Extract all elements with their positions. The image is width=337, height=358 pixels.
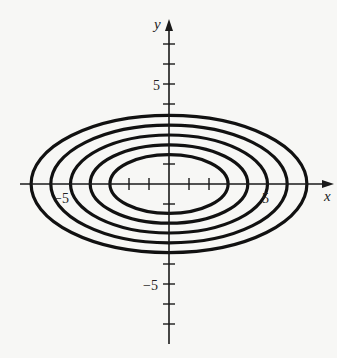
plot-canvas: x y −5 5 5 −5 (0, 0, 337, 358)
y-axis-arrow-icon (165, 19, 173, 31)
x-tick-label-neg5: −5 (54, 191, 69, 206)
y-tick-label-pos5: 5 (153, 78, 160, 93)
x-tick-label-pos5: 5 (262, 191, 269, 206)
y-tick-label-neg5: −5 (143, 278, 158, 293)
x-axis-label: x (323, 188, 331, 204)
contour-plot: x y −5 5 5 −5 (0, 0, 337, 358)
y-axis-label: y (152, 16, 161, 32)
x-axis-arrow-icon (322, 180, 334, 188)
